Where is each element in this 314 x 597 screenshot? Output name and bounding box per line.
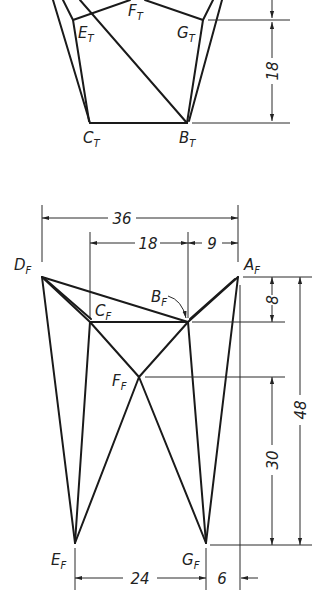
dim-18-top: 18 bbox=[264, 61, 282, 80]
leader-b-front bbox=[168, 296, 186, 318]
label-g-top: GT bbox=[177, 24, 196, 44]
edge-f-g bbox=[139, 377, 206, 543]
label-c-top: CT bbox=[83, 129, 100, 149]
label-f-front: FF bbox=[112, 372, 127, 392]
edge-a-g bbox=[206, 277, 238, 543]
top-view: 18 ET FT GT CT BT bbox=[53, 0, 290, 149]
front-view: 36 18 9 8 30 bbox=[14, 205, 312, 590]
dim-8: 8 bbox=[264, 295, 282, 305]
dim-36: 36 bbox=[112, 210, 131, 228]
edge-d-e bbox=[42, 277, 75, 543]
label-f-top: FT bbox=[128, 2, 144, 22]
edge-f-g bbox=[145, 0, 203, 20]
label-e-front: EF bbox=[51, 551, 66, 571]
dim-48: 48 bbox=[292, 400, 310, 419]
edge-c-f bbox=[90, 322, 139, 377]
edge-g-top bbox=[203, 0, 213, 20]
label-b-front: BF bbox=[151, 288, 167, 308]
dim-30: 30 bbox=[264, 450, 282, 469]
label-b-top: BT bbox=[179, 129, 196, 149]
label-e-top: ET bbox=[78, 24, 94, 44]
dim-18-front: 18 bbox=[138, 235, 157, 253]
edge-b-f bbox=[139, 322, 188, 377]
label-d-front: DF bbox=[14, 256, 32, 276]
edge-a-b-double bbox=[190, 279, 235, 319]
label-a-front: AF bbox=[243, 256, 260, 276]
dim-24: 24 bbox=[130, 570, 149, 588]
edge-b-g bbox=[188, 322, 206, 543]
label-g-front: GF bbox=[182, 551, 200, 571]
label-c-front: CF bbox=[95, 302, 111, 322]
dim-9: 9 bbox=[207, 235, 217, 253]
edge-left-inner-top bbox=[63, 0, 73, 20]
edge-right-outer bbox=[189, 0, 222, 121]
dim-6: 6 bbox=[217, 570, 227, 588]
orthographic-drawing: 18 ET FT GT CT BT 36 18 9 bbox=[0, 0, 314, 597]
